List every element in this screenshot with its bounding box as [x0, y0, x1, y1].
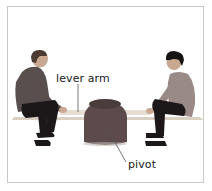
lever-arm-label: lever arm: [56, 73, 110, 84]
pivot-shape: [83, 99, 127, 146]
right-child-figure: [145, 51, 195, 146]
left-child-figure: [15, 50, 67, 146]
pivot-label: pivot: [128, 159, 156, 170]
seesaw-illustration: [0, 0, 212, 191]
